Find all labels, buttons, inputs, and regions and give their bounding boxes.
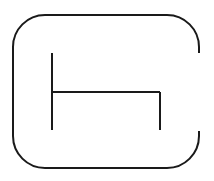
inner-bracket-shape	[52, 53, 160, 130]
line-drawing-canvas	[0, 0, 214, 181]
